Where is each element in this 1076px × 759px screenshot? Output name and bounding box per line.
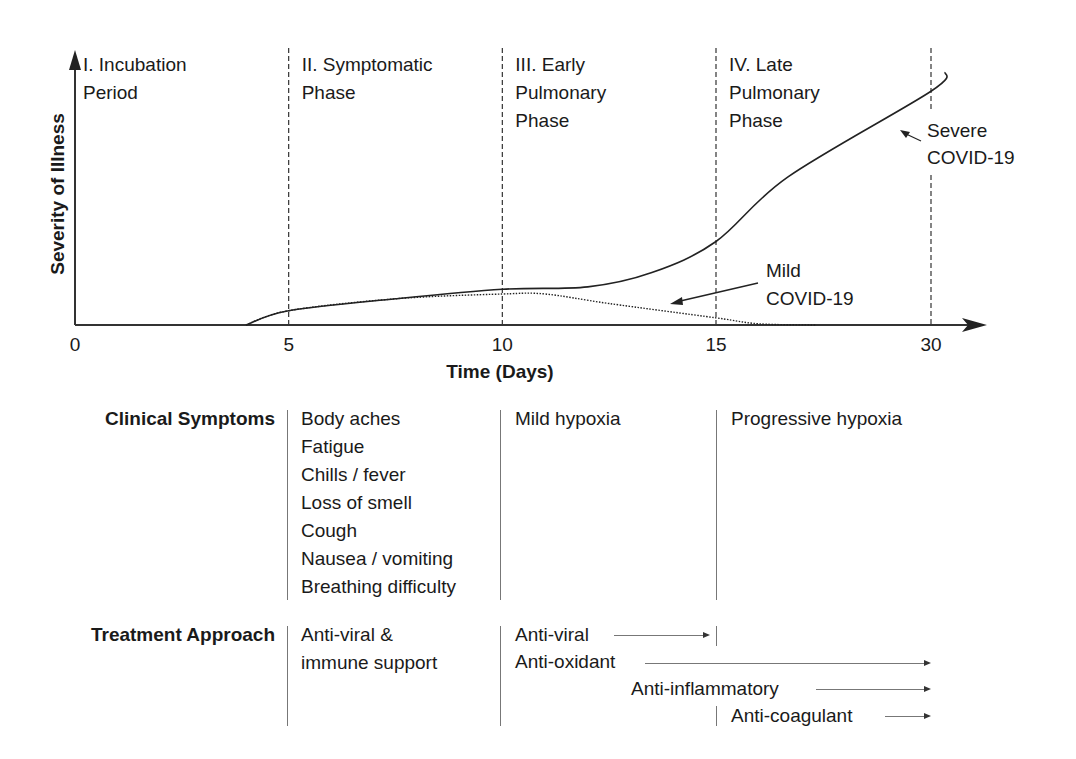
treatment-anticoagulant: Anti-coagulant bbox=[731, 702, 852, 730]
treatment-antioxidant-arrow-line bbox=[645, 663, 925, 664]
symptom-item: Mild hypoxia bbox=[515, 405, 621, 433]
symptom-item: Cough bbox=[301, 517, 456, 545]
treatment-anticoagulant-arrow-line bbox=[885, 716, 925, 717]
mild-label-line-2: COVID-19 bbox=[766, 288, 854, 309]
anticoagulant-start-marker bbox=[716, 706, 717, 726]
symptom-item: Body aches bbox=[301, 405, 456, 433]
severe-annotation: Severe COVID-19 bbox=[900, 120, 1015, 168]
disease-course-chart: I. IncubationPeriodII. SymptomaticPhaseI… bbox=[0, 0, 1076, 400]
treatment-antiviral-arrow-icon bbox=[703, 632, 710, 638]
mild-pointer-arrow-icon bbox=[670, 297, 683, 305]
treatment-antiviral-arrow-line bbox=[614, 635, 704, 636]
treatment-antioxidant: Anti-oxidant bbox=[515, 648, 615, 676]
treatment-item: Anti-viral & bbox=[301, 621, 437, 649]
clinical-symptoms-header: Clinical Symptoms bbox=[35, 408, 275, 430]
symptom-item: Fatigue bbox=[301, 433, 456, 461]
phase-4-label-line-2: Pulmonary bbox=[729, 82, 820, 103]
symptoms-phase2-list: Body achesFatigueChills / feverLoss of s… bbox=[301, 405, 456, 601]
phase-3-label-line-1: III. Early bbox=[515, 54, 585, 75]
x-axis-title: Time (Days) bbox=[446, 361, 553, 382]
symptom-item: Nausea / vomiting bbox=[301, 545, 456, 573]
phase-2-label-line-1: II. Symptomatic bbox=[302, 54, 433, 75]
divider-phase4-symptoms bbox=[716, 410, 717, 600]
mild-covid-curve bbox=[246, 293, 816, 325]
divider-phase3-symptoms bbox=[500, 410, 501, 600]
treatment-antioxidant-arrow-icon bbox=[924, 660, 931, 666]
phase-3-label-line-3: Phase bbox=[515, 110, 569, 131]
severe-label-line-2: COVID-19 bbox=[927, 147, 1015, 168]
symptom-item: Loss of smell bbox=[301, 489, 456, 517]
symptoms-phase3-list: Mild hypoxia bbox=[515, 405, 621, 433]
treatment-antiinflammatory-arrow-line bbox=[816, 689, 925, 690]
x-tick-label-10: 10 bbox=[492, 334, 513, 355]
phase-1-label-line-2: Period bbox=[83, 82, 138, 103]
treatment-antiviral: Anti-viral bbox=[515, 621, 589, 649]
treatment-approach-header: Treatment Approach bbox=[35, 624, 275, 646]
severe-pointer-arrow-icon bbox=[900, 130, 910, 138]
divider-phase3-treatment bbox=[500, 626, 501, 726]
divider-phase2-symptoms bbox=[287, 410, 288, 600]
treatment-antiinflammatory-arrow-icon bbox=[924, 686, 931, 692]
x-tick-label-30: 30 bbox=[920, 334, 941, 355]
y-axis-arrow-icon bbox=[69, 50, 81, 70]
symptoms-phase4-list: Progressive hypoxia bbox=[731, 405, 902, 433]
x-tick-label-0: 0 bbox=[70, 334, 81, 355]
y-axis-title: Severity of Illness bbox=[47, 113, 68, 275]
x-tick-label-5: 5 bbox=[283, 334, 294, 355]
treatment-phase2-list: Anti-viral &immune support bbox=[301, 621, 437, 677]
symptom-item: Progressive hypoxia bbox=[731, 405, 902, 433]
phase-4-label-line-1: IV. Late bbox=[729, 54, 793, 75]
symptom-item: Chills / fever bbox=[301, 461, 456, 489]
phase-4-label-line-3: Phase bbox=[729, 110, 783, 131]
divider-phase2-treatment bbox=[287, 626, 288, 726]
treatment-antiinflammatory: Anti-inflammatory bbox=[631, 675, 779, 703]
mild-label-line-1: Mild bbox=[766, 260, 801, 281]
severe-label-line-1: Severe bbox=[927, 120, 987, 141]
phase-1-label-line-1: I. Incubation bbox=[83, 54, 187, 75]
mild-pointer-line bbox=[676, 283, 758, 302]
phase-2-label-line-2: Phase bbox=[302, 82, 356, 103]
x-tick-label-15: 15 bbox=[705, 334, 726, 355]
phase-3-label-line-2: Pulmonary bbox=[515, 82, 606, 103]
antiviral-end-marker bbox=[716, 626, 717, 646]
symptom-item: Breathing difficulty bbox=[301, 573, 456, 601]
mild-annotation: Mild COVID-19 bbox=[670, 260, 854, 309]
treatment-item: immune support bbox=[301, 649, 437, 677]
treatment-anticoagulant-arrow-icon bbox=[924, 713, 931, 719]
